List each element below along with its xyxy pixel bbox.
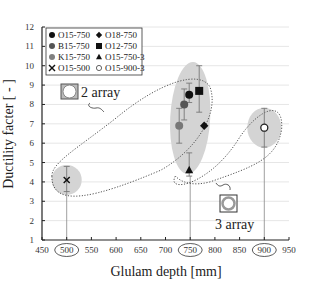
three-array-label: 3 array xyxy=(215,217,254,232)
y-tick-label: 8 xyxy=(30,99,35,109)
open-circle-marker-icon xyxy=(96,65,101,70)
open-circle-marker-icon xyxy=(261,124,268,131)
x-tick-label: 600 xyxy=(109,245,123,255)
legend-marker xyxy=(49,32,55,38)
y-tick-label: 7 xyxy=(30,119,35,129)
two-array-label: 2 array xyxy=(81,85,120,100)
x-tick-label: 800 xyxy=(208,245,222,255)
y-tick-label: 11 xyxy=(25,41,34,51)
annotation-3-array: 3 array xyxy=(215,183,254,232)
legend-label: O15-500 xyxy=(58,63,90,73)
legend-label: O15-750 xyxy=(58,30,90,40)
circle-marker-icon xyxy=(185,91,193,99)
legend-marker xyxy=(96,43,102,49)
x-tick-label: 900 xyxy=(258,245,272,255)
circle-marker-icon xyxy=(49,32,55,38)
x-axis-title: Glulam depth [mm] xyxy=(110,264,221,279)
x-tick-label: 450 xyxy=(35,245,49,255)
legend-label: B15-750 xyxy=(58,41,90,51)
circle-marker-icon xyxy=(49,54,55,60)
square-marker-icon xyxy=(96,43,102,49)
legend-marker xyxy=(49,43,55,49)
cluster-shading xyxy=(52,61,282,195)
y-tick-label: 4 xyxy=(30,177,35,187)
x-tick-label: 950 xyxy=(282,245,296,255)
square-marker-icon xyxy=(195,87,203,95)
circle-marker-icon xyxy=(180,100,188,108)
y-tick-label: 10 xyxy=(25,61,35,71)
legend-label: O12-750 xyxy=(105,41,137,51)
legend-label: O15-900-3 xyxy=(105,63,145,73)
three-array-arrow-icon xyxy=(216,183,230,190)
x-tick-label: 650 xyxy=(134,245,148,255)
circle-marker-icon xyxy=(49,43,55,49)
legend-marker xyxy=(49,54,55,60)
legend-label: O15-750-3 xyxy=(105,52,145,62)
y-tick-label: 5 xyxy=(30,158,35,168)
y-tick-label: 6 xyxy=(30,138,35,148)
y-axis-title: Ductility facter [ - ] xyxy=(1,79,16,189)
y-tick-label: 3 xyxy=(30,196,35,206)
x-tick-label: 850 xyxy=(233,245,247,255)
y-tick-label: 1 xyxy=(30,235,35,245)
two-array-ring-icon xyxy=(63,85,76,98)
x-tick-label: 550 xyxy=(85,245,99,255)
annotation-2-array: 2 array xyxy=(61,84,120,112)
cluster-750 xyxy=(167,61,213,175)
x-tick-label: 500 xyxy=(60,245,74,255)
legend-label: K15-750 xyxy=(58,52,90,62)
legend-label: O18-750 xyxy=(105,30,137,40)
x-tick-label: 750 xyxy=(183,245,197,255)
y-tick-label: 2 xyxy=(30,216,35,226)
ductility-chart: 1234567891011124505005506006507007508008… xyxy=(0,0,310,291)
legend: O15-750B15-750K15-750O15-500O18-750O12-7… xyxy=(46,28,145,75)
x-tick-label: 700 xyxy=(159,245,173,255)
y-tick-label: 12 xyxy=(25,22,34,32)
circle-marker-icon xyxy=(175,122,183,130)
y-tick-label: 9 xyxy=(30,80,35,90)
